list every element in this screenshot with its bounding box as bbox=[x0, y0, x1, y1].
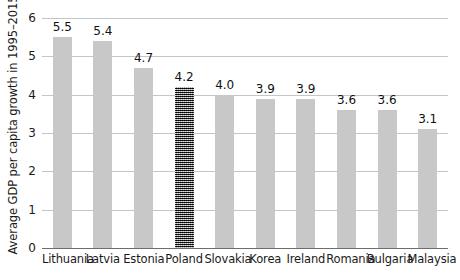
plot-area: 5.55.44.74.24.03.93.93.63.63.1 bbox=[42, 18, 448, 248]
bar-rect bbox=[53, 37, 72, 248]
bar-rect bbox=[418, 129, 437, 248]
bar-rect bbox=[93, 41, 112, 248]
bar-rect bbox=[134, 68, 153, 248]
bar-value-label: 3.9 bbox=[251, 82, 279, 96]
x-axis-line bbox=[42, 248, 448, 249]
gridline bbox=[42, 18, 448, 19]
category-label-poland: Poland bbox=[164, 252, 205, 266]
bar-value-label: 5.5 bbox=[48, 20, 76, 34]
category-label-slovakia: Slovakia bbox=[204, 252, 245, 266]
bar-bulgaria[interactable] bbox=[378, 110, 397, 248]
category-label-romania: Romania bbox=[326, 252, 367, 266]
y-tick-label: 3 bbox=[10, 126, 36, 140]
bar-rect bbox=[296, 99, 315, 249]
y-tick-label: 6 bbox=[10, 11, 36, 25]
bar-value-label: 4.7 bbox=[130, 51, 158, 65]
bar-estonia[interactable] bbox=[134, 68, 153, 248]
category-label-malaysia: Malaysia bbox=[407, 252, 448, 266]
bar-value-label: 3.6 bbox=[333, 93, 361, 107]
category-label-korea: Korea bbox=[245, 252, 286, 266]
bar-malaysia[interactable] bbox=[418, 129, 437, 248]
bar-value-label: 4.0 bbox=[211, 78, 239, 92]
bar-value-label: 3.1 bbox=[414, 112, 442, 126]
category-label-estonia: Estonia bbox=[123, 252, 164, 266]
bar-rect bbox=[256, 99, 275, 249]
bar-value-label: 4.2 bbox=[170, 70, 198, 84]
bar-slovakia[interactable] bbox=[215, 95, 234, 248]
y-tick-label: 1 bbox=[10, 203, 36, 217]
y-axis-tick-labels: 0123456 bbox=[8, 18, 36, 248]
bar-value-label: 5.4 bbox=[89, 24, 117, 38]
bar-chart: Average GDP per capita growth in 1995–20… bbox=[0, 0, 460, 280]
bar-rect bbox=[337, 110, 356, 248]
y-tick-label: 5 bbox=[10, 49, 36, 63]
bar-rect-highlighted bbox=[175, 87, 194, 248]
category-label-latvia: Latvia bbox=[83, 252, 124, 266]
bar-romania[interactable] bbox=[337, 110, 356, 248]
bar-rect bbox=[215, 95, 234, 248]
bar-value-label: 3.9 bbox=[292, 82, 320, 96]
bar-poland[interactable] bbox=[175, 87, 194, 248]
y-tick-label: 0 bbox=[10, 241, 36, 255]
category-label-lithuania: Lithuania bbox=[42, 252, 83, 266]
bar-ireland[interactable] bbox=[296, 99, 315, 249]
bar-value-label: 3.6 bbox=[373, 93, 401, 107]
bar-korea[interactable] bbox=[256, 99, 275, 249]
bar-lithuania[interactable] bbox=[53, 37, 72, 248]
x-axis-category-labels: LithuaniaLatviaEstoniaPolandSlovakiaKore… bbox=[42, 252, 448, 274]
bar-rect bbox=[378, 110, 397, 248]
y-tick-label: 2 bbox=[10, 164, 36, 178]
y-tick-label: 4 bbox=[10, 88, 36, 102]
bar-latvia[interactable] bbox=[93, 41, 112, 248]
category-label-bulgaria: Bulgaria bbox=[367, 252, 408, 266]
category-label-ireland: Ireland bbox=[286, 252, 327, 266]
